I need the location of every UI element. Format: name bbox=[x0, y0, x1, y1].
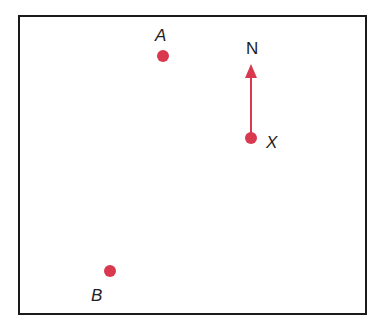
point-x-marker bbox=[245, 132, 257, 144]
point-a-marker bbox=[157, 50, 169, 62]
diagram-canvas bbox=[0, 0, 385, 333]
north-arrow-head-icon bbox=[245, 64, 257, 78]
north-label: N bbox=[246, 40, 258, 57]
point-b-marker bbox=[104, 265, 116, 277]
point-x-label: X bbox=[266, 134, 277, 151]
point-b-label: B bbox=[91, 287, 102, 304]
point-a-label: A bbox=[155, 27, 166, 44]
